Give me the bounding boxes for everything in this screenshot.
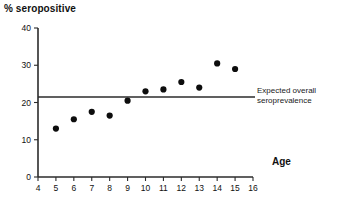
x-axis-tick-label: 13 <box>195 183 205 193</box>
data-point <box>178 79 184 85</box>
chart-figure: % seropositive Age Expected overall sero… <box>0 0 342 212</box>
data-point <box>196 85 202 91</box>
data-point <box>53 125 59 131</box>
x-axis-tick-label: 14 <box>212 183 222 193</box>
data-point <box>142 88 148 94</box>
x-axis-tick-label: 11 <box>159 183 168 193</box>
y-axis-tick-label: 0 <box>26 172 31 182</box>
data-point <box>160 86 166 92</box>
x-axis-tick-label: 4 <box>36 183 41 193</box>
x-axis-tick-label: 10 <box>141 183 151 193</box>
x-axis-tick-label: 8 <box>107 183 112 193</box>
x-axis-tick-label: 15 <box>230 183 240 193</box>
x-axis-tick-label: 5 <box>54 183 59 193</box>
y-axis-tick-label: 10 <box>22 135 32 145</box>
x-axis: 45678910111213141516 <box>36 177 258 193</box>
data-point <box>214 60 220 66</box>
scatter-plot: 010203040 45678910111213141516 <box>0 0 342 212</box>
y-axis-tick-label: 30 <box>22 60 32 70</box>
x-axis-tick-label: 7 <box>89 183 94 193</box>
y-axis-tick-label: 40 <box>22 23 32 33</box>
data-point <box>124 98 130 104</box>
x-axis-tick-label: 12 <box>177 183 187 193</box>
y-axis: 010203040 <box>22 23 38 182</box>
x-axis-tick-label: 16 <box>248 183 258 193</box>
data-point <box>107 112 113 118</box>
x-axis-tick-label: 6 <box>71 183 76 193</box>
data-points <box>53 60 238 131</box>
x-axis-tick-label: 9 <box>125 183 130 193</box>
y-axis-tick-label: 20 <box>22 98 32 108</box>
data-point <box>71 116 77 122</box>
data-point <box>89 109 95 115</box>
data-point <box>232 66 238 72</box>
